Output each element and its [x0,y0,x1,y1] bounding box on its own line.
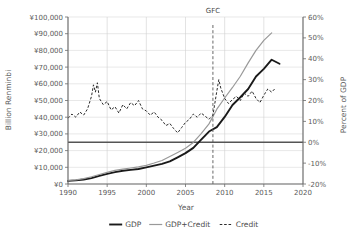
y-tick-label-left: ¥20,000 [34,147,63,155]
y-tick-label-left: ¥10,000 [34,164,63,172]
y-tick-label-left: ¥90,000 [34,30,63,38]
event-marker-label: GFC [206,7,220,15]
y-axis-title-left: Billion Renminbi [4,70,13,130]
x-tick-label: 2005 [177,189,195,197]
y-tick-label-right: 50% [308,34,324,42]
y-tick-label-left: ¥70,000 [34,64,63,72]
legend-label: Credit [236,220,259,229]
y-tick-label-right: 10% [308,118,324,126]
y-tick-label-left: ¥100,000 [30,14,63,22]
y-tick-label-right: 20% [308,97,324,105]
y-tick-label-right: -20% [308,181,326,189]
y-tick-label-right: 40% [308,55,324,63]
y-tick-label-left: ¥0 [54,181,63,189]
legend-label: GDP [125,220,142,229]
legend-label: GDP+Credit [165,220,210,229]
x-tick-label: 1990 [59,189,77,197]
y-tick-label-left: ¥30,000 [34,130,63,138]
x-axis-title: Year [177,203,195,212]
x-tick-label: 1995 [98,189,116,197]
y-tick-label-right: -10% [308,160,326,168]
chart-legend: GDPGDP+CreditCredit [109,220,258,229]
y-tick-label-right: 60% [308,14,324,22]
y-tick-label-right: 0% [308,139,319,147]
x-tick-label: 2000 [137,189,155,197]
y-tick-label-left: ¥40,000 [34,114,63,122]
y-tick-label-left: ¥80,000 [34,47,63,55]
y-tick-label-left: ¥50,000 [34,97,63,105]
x-tick-label: 2010 [216,189,234,197]
x-tick-label: 2015 [255,189,273,197]
y-axis-title-right: Percent of GDP [339,76,348,133]
y-tick-label-left: ¥60,000 [34,80,63,88]
x-tick-label: 2020 [294,189,312,197]
chart-figure: ¥0¥10,000¥20,000¥30,000¥40,000¥50,000¥60… [0,0,354,241]
y-tick-label-right: 30% [308,76,324,84]
